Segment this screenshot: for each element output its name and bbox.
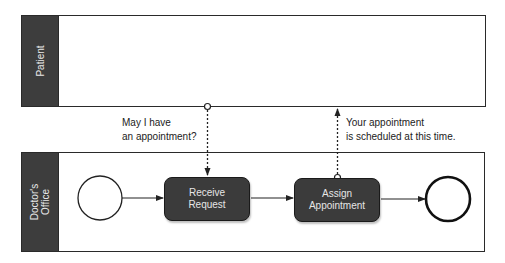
end-event-icon	[426, 177, 470, 221]
flow-connectors	[0, 0, 505, 263]
message-flow-response	[335, 109, 341, 181]
task-label-assign-appointment: Assign Appointment	[309, 188, 365, 212]
task-assign-appointment: Assign Appointment	[294, 178, 380, 222]
task-label-receive-request: Receive Request	[188, 187, 225, 211]
task-receive-request: Receive Request	[164, 177, 250, 221]
start-event-icon	[78, 176, 122, 220]
message-flow-request	[205, 104, 211, 176]
